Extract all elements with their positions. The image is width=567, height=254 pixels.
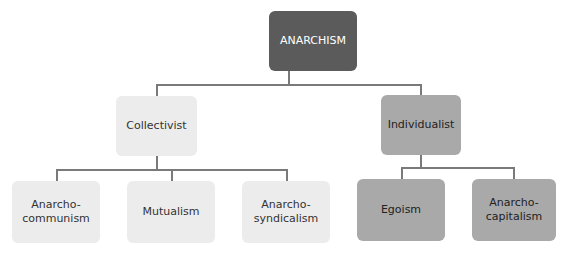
connector-to-anarcho-capitalism [513,167,515,179]
node-collectivist: Collectivist [116,96,197,156]
connector-root-stem [288,71,290,84]
node-anarcho-communism: Anarcho- communism [12,181,100,243]
node-egoism: Egoism [357,179,445,241]
connector-to-anarcho-communism [56,169,58,181]
node-anarcho-syndicalism: Anarcho- syndicalism [242,181,330,243]
connector-individualist-stem [420,155,422,167]
connector-to-individualist [420,84,422,95]
connector-root-bar [156,84,422,86]
node-individualist: Individualist [381,95,461,155]
node-anarcho-capitalism: Anarcho- capitalism [472,179,556,241]
connector-to-anarcho-syndicalism [286,169,288,181]
connector-to-collectivist [156,84,158,96]
node-anarchism: ANARCHISM [269,11,357,71]
connector-to-egoism [401,167,403,179]
connector-to-mutualism [171,169,173,181]
connector-collectivist-stem [156,156,158,169]
node-mutualism: Mutualism [127,181,215,243]
connector-individualist-bar [401,167,514,169]
